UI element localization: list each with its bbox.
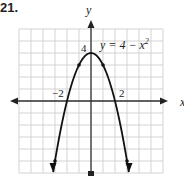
curve-right-arrow-icon bbox=[126, 163, 133, 172]
x-axis-left-arrow-icon bbox=[10, 98, 18, 105]
curve-point bbox=[101, 63, 105, 67]
curve-point bbox=[53, 159, 57, 163]
x-axis bbox=[10, 98, 168, 105]
x-axis-right-arrow-icon bbox=[160, 98, 168, 105]
x-tick-label-neg2: −2 bbox=[52, 87, 64, 99]
curve-point bbox=[77, 63, 81, 67]
curve-left-arrow-icon bbox=[50, 163, 57, 172]
y-axis bbox=[88, 20, 95, 176]
y-tick-label-4: 4 bbox=[81, 42, 87, 54]
y-axis-bottom-marker bbox=[88, 171, 94, 176]
y-axis-up-arrow-icon bbox=[88, 20, 95, 28]
y-axis-label: y bbox=[85, 3, 92, 17]
parabola-graph: y x 4 −2 2 y = 4 − x2 bbox=[0, 0, 184, 177]
x-tick-label-2: 2 bbox=[119, 87, 125, 99]
x-axis-label: x bbox=[179, 95, 184, 109]
curve-point bbox=[125, 159, 129, 163]
equation-label: y = 4 − x2 bbox=[99, 37, 149, 52]
